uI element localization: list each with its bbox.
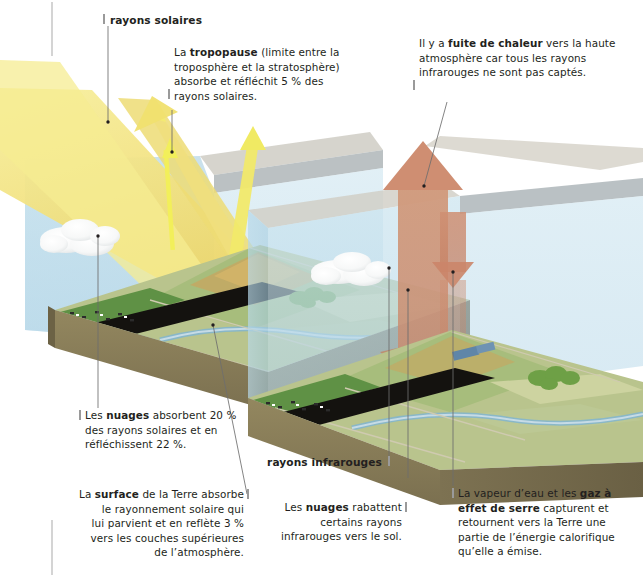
callout-clouds-reflect: Les nuages rabattent certains rayons inf…	[262, 500, 402, 544]
ghg-line-5: qu’elle a émise.	[458, 545, 542, 557]
tick-clouds-absorb	[79, 410, 81, 420]
ghg-line-2: effet de serre capturent et	[458, 502, 609, 514]
label-rayons-infrarouges: rayons infrarouges	[248, 455, 382, 470]
cloudsabsorb-line-1: Les nuages absorbent 20 %	[85, 409, 236, 421]
cloudsreflect-line-1: Les nuages rabattent	[285, 501, 402, 513]
surface-bold: surface	[95, 488, 139, 500]
surface-line-2: le rayonnement solaire qui	[102, 503, 244, 515]
surface-line-4: vers les couches supérieures	[91, 532, 244, 544]
tick-tropopause	[168, 89, 170, 99]
tick-solar-rays	[103, 14, 105, 24]
tick-greenhouse-gas	[452, 488, 454, 498]
figure-root: rayons solaires La tropopause (limite en…	[0, 0, 643, 577]
tropopause-line-4: rayons solaires.	[174, 90, 257, 102]
surface-line-3: lui parvient et en reflète 3 %	[92, 517, 244, 529]
label-rayons-solaires: rayons solaires	[110, 13, 260, 28]
surface-line-5: de l’atmosphère.	[154, 546, 244, 558]
tick-infrared-rays	[388, 456, 390, 466]
tropopause-line-1: La tropopause (limite entre la	[174, 46, 339, 58]
tick-heat-leak	[413, 80, 415, 90]
tick-clouds-reflect	[405, 502, 407, 512]
heatleak-line-2: atmosphère car tous les rayons	[419, 52, 586, 64]
cloudsabsorb-bold: nuages	[106, 409, 149, 421]
cloudsabsorb-line-3: réfléchissent 22 %.	[85, 438, 186, 450]
callout-heat-leak: Il y a fuite de chaleur vers la haute at…	[419, 36, 629, 80]
tropopause-line-3: absorbe et réfléchit 5 % des	[174, 75, 323, 87]
cloudsabsorb-line-2: des rayons solaires et en	[85, 424, 218, 436]
cloudsreflect-line-2: certains rayons	[320, 516, 402, 528]
tick-surface	[247, 489, 249, 499]
ghg-bold-1: gaz à	[580, 487, 612, 499]
cloudsreflect-line-3: infrarouges vers le sol.	[281, 530, 402, 542]
heatleak-bold: fuite de chaleur	[448, 37, 543, 49]
tropopause-line-2: troposphère et la stratosphère)	[174, 61, 340, 73]
callout-surface: La surface de la Terre absorbe le rayonn…	[62, 487, 244, 560]
ghg-bold-2: effet de serre	[458, 502, 540, 514]
callout-greenhouse-gas: La vapeur d’eau et les gaz à effet de se…	[458, 486, 638, 559]
cloudsreflect-bold: nuages	[306, 501, 349, 513]
tropopause-bold: tropopause	[190, 46, 258, 58]
ghg-line-3: retournent vers la Terre une	[458, 516, 606, 528]
callout-clouds-absorb: Les nuages absorbent 20 % des rayons sol…	[85, 408, 275, 452]
callout-tropopause: La tropopause (limite entre la troposphè…	[174, 45, 350, 103]
surface-line-1: La surface de la Terre absorbe	[79, 488, 244, 500]
heatleak-line-3: infrarouges ne sont pas captés.	[419, 66, 586, 78]
ghg-line-4: partie de l’énergie calorifique	[458, 531, 615, 543]
heatleak-line-1: Il y a fuite de chaleur vers la haute	[419, 37, 616, 49]
ghg-line-1: La vapeur d’eau et les gaz à	[458, 487, 612, 499]
